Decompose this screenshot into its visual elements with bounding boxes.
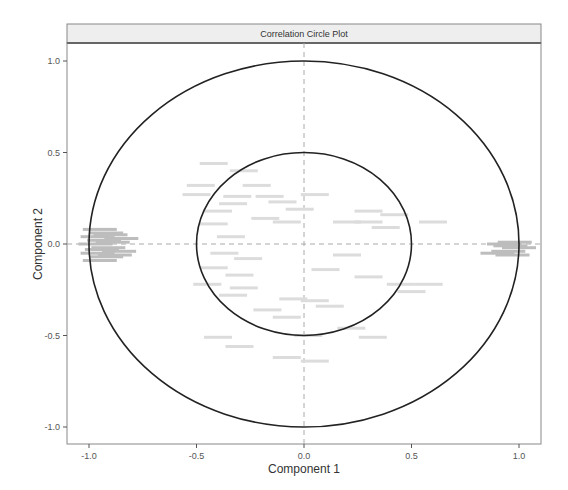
chart-title: Correlation Circle Plot — [260, 29, 348, 39]
variable-label — [372, 226, 400, 229]
x-axis: -1.0 -0.5 0.0 0.5 1.0 Component 1 — [81, 444, 525, 476]
variable-label — [359, 336, 387, 339]
variable-label — [83, 259, 117, 262]
variable-label — [415, 283, 443, 286]
x-tick-label: 1.0 — [513, 451, 526, 461]
variable-label — [496, 254, 530, 257]
variable-label — [316, 305, 344, 308]
variable-label — [256, 195, 284, 198]
variable-label — [355, 221, 383, 224]
variable-label — [355, 210, 383, 213]
variable-label — [94, 233, 128, 236]
variable-label — [91, 246, 125, 249]
variable-label — [98, 254, 132, 257]
variable-label — [204, 210, 232, 213]
x-tick-label: -1.0 — [81, 451, 97, 461]
x-tick-label: 0.0 — [298, 451, 311, 461]
variable-label — [312, 268, 340, 271]
variable-label — [104, 237, 138, 240]
variable-label — [219, 294, 247, 297]
variable-label — [286, 208, 314, 211]
variable-label — [498, 241, 532, 244]
correlation-circle-chart: Correlation Circle Plot -1.0 -0.5 0.0 0.… — [0, 0, 568, 490]
variable-label — [210, 252, 238, 255]
variable-label — [217, 235, 245, 238]
variable-label — [204, 336, 232, 339]
variable-label — [219, 202, 247, 205]
variable-labels — [79, 162, 537, 363]
variable-label — [230, 169, 258, 172]
y-tick-label: 0.5 — [47, 148, 60, 158]
variable-label — [226, 345, 254, 348]
variable-label — [102, 250, 136, 253]
variable-label — [96, 241, 130, 244]
variable-label — [398, 290, 426, 293]
variable-label — [200, 222, 228, 225]
variable-label — [187, 184, 215, 187]
variable-label — [269, 200, 297, 203]
variable-label — [226, 274, 254, 277]
variable-label — [301, 193, 329, 196]
x-tick-label: -0.5 — [189, 451, 205, 461]
variable-label — [273, 221, 301, 224]
variable-label — [301, 299, 329, 302]
variable-label — [83, 228, 117, 231]
variable-label — [419, 221, 447, 224]
y-axis-label: Component 2 — [31, 208, 45, 280]
variable-label — [273, 316, 301, 319]
variable-label — [200, 266, 228, 269]
variable-label — [200, 162, 228, 165]
variable-label — [251, 217, 279, 220]
variable-label — [234, 257, 262, 260]
y-tick-label: -0.5 — [44, 331, 60, 341]
y-axis: 1.0 0.5 0.0 -0.5 -1.0 Component 2 — [31, 56, 67, 432]
y-tick-label: -1.0 — [44, 422, 60, 432]
variable-label — [183, 193, 211, 196]
y-tick-label: 1.0 — [47, 56, 60, 66]
variable-label — [355, 275, 383, 278]
variable-label — [301, 360, 329, 363]
x-axis-label: Component 1 — [268, 462, 340, 476]
y-tick-label: 0.0 — [47, 239, 60, 249]
variable-label — [380, 213, 408, 216]
variable-label — [223, 195, 251, 198]
variable-label — [273, 356, 301, 359]
variable-label — [253, 308, 281, 311]
variable-label — [230, 286, 258, 289]
x-tick-label: 0.5 — [405, 451, 418, 461]
variable-label — [243, 184, 271, 187]
variable-label — [333, 254, 361, 257]
